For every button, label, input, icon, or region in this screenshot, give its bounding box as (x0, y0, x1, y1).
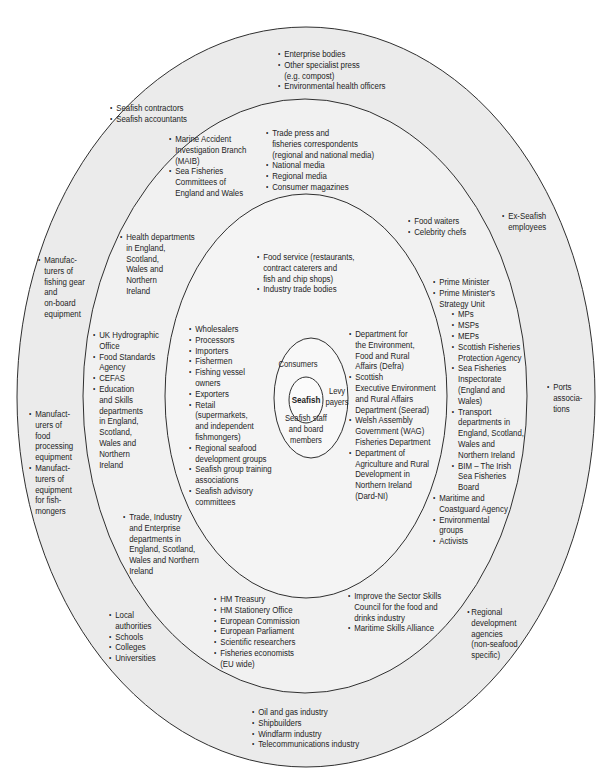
list-item: •Fishing vessel owners (189, 367, 272, 389)
list-item: •Telecommunications industry (252, 739, 359, 750)
list-item: •Health departments in England, Scotland… (120, 232, 195, 297)
bullet-icon: • (349, 415, 351, 426)
bullet-icon: • (452, 363, 454, 374)
bullet-icon: • (257, 252, 259, 263)
bullet-icon: • (189, 356, 191, 367)
bullet-icon: • (278, 60, 280, 71)
list-item: •Maritime Skills Alliance (348, 623, 441, 634)
second-left-top-list: •Health departments in England, Scotland… (120, 232, 195, 297)
bullet-icon: • (452, 320, 454, 331)
bullet-icon: • (169, 166, 171, 177)
bullet-icon: • (169, 134, 171, 145)
bullet-icon: • (252, 718, 254, 729)
outer-right-middle-list: •Ports associa- tions (547, 382, 582, 414)
bullet-icon: • (252, 729, 254, 740)
bullet-icon: • (214, 626, 216, 637)
list-item: •Regional development agencies (non-seaf… (468, 607, 518, 661)
list-item: •Retail (supermarkets, and independent f… (189, 400, 272, 443)
bullet-icon: • (189, 324, 191, 335)
third-right-list: •Department for the Environment, Food an… (349, 329, 436, 502)
bullet-icon: • (214, 605, 216, 616)
list-item: •Ex-Seafish employees (502, 211, 546, 233)
bullet-icon: • (547, 382, 549, 393)
bullet-icon: • (348, 591, 350, 602)
bullet-icon: • (433, 515, 435, 526)
bullet-icon: • (452, 461, 454, 472)
bullet-icon: • (452, 309, 454, 320)
list-item: •Manufact- urers of food processing equi… (29, 409, 73, 463)
consumers-label: Consumers (278, 359, 317, 370)
bullet-icon: • (252, 707, 254, 718)
list-item: •Manufac- turers of fishing gear and on-… (38, 255, 85, 320)
list-item: •Activists (433, 536, 524, 547)
list-item: •Food service (restaurants, contract cat… (257, 252, 355, 284)
bullet-icon: • (452, 342, 454, 353)
bullet-icon: • (123, 512, 125, 523)
bullet-icon: • (109, 642, 111, 653)
list-item: •Environmental health officers (278, 81, 385, 92)
bullet-icon: • (266, 171, 268, 182)
bullet-icon: • (189, 464, 191, 475)
seafish-core-label: Seafish (292, 395, 321, 406)
list-item: •Food Standards Agency (93, 352, 159, 374)
bullet-icon: • (433, 288, 435, 299)
bullet-icon: • (266, 182, 268, 193)
list-item: •Department of Agriculture and Rural Dev… (349, 448, 436, 502)
bullet-icon: • (38, 255, 40, 266)
list-item: •Trade, Industry and Enterprise departme… (123, 512, 199, 577)
list-item: •Industry trade bodies (257, 284, 355, 295)
second-bottom-right-list: •Improve the Sector Skills Council for t… (348, 591, 441, 634)
bullet-icon: • (467, 607, 469, 618)
list-item: •Other specialist press (e.g. compost) (278, 60, 385, 82)
list-item: •Education and Skills departments in Eng… (93, 384, 159, 470)
list-item: •Marine Accident Investigation Branch (M… (169, 134, 246, 166)
bullet-icon: • (120, 232, 122, 243)
bullet-icon: • (189, 443, 191, 454)
bullet-icon: • (189, 335, 191, 346)
bullet-icon: • (93, 384, 95, 395)
list-item: •Manufact- turers of equipment for fish-… (29, 463, 73, 517)
second-left-bottom-list: •Trade, Industry and Enterprise departme… (123, 512, 199, 577)
bullet-icon: • (266, 128, 268, 139)
second-right-list: •Prime Minister •Prime Minister's Strate… (433, 277, 524, 547)
outer-bottom-left-list: •Local authorities •Schools •Colleges •U… (109, 610, 156, 664)
list-item: •Regional seafood development groups (189, 443, 272, 465)
list-item: •Ports associa- tions (547, 382, 582, 414)
bullet-icon: • (349, 448, 351, 459)
outer-left-upper-list: •Manufac- turers of fishing gear and on-… (38, 255, 85, 320)
levy-payers-label: Levy payers (326, 386, 349, 408)
list-item: •Celebrity chefs (408, 227, 466, 238)
outer-top-left-list: •Seafish contractors •Seafish accountant… (110, 103, 187, 125)
bullet-icon: • (110, 114, 112, 125)
bullet-icon: • (109, 610, 111, 621)
sub-list-item: •Scottish Fisheries Protection Agency (452, 342, 524, 364)
stakeholder-diagram: Consumers Seafish Levy payers Seafish st… (0, 0, 608, 781)
list-item: •Maritime and Coastguard Agency (433, 493, 524, 515)
outer-bottom-right-list: •Regional development agencies (non-seaf… (468, 607, 518, 661)
bullet-icon: • (29, 463, 31, 474)
list-item: •Seafish group training associations (189, 464, 272, 486)
bullet-icon: • (110, 103, 112, 114)
bullet-icon: • (349, 329, 351, 340)
bullet-icon: • (349, 372, 351, 383)
bullet-icon: • (433, 277, 435, 288)
bullet-icon: • (189, 389, 191, 400)
bullet-icon: • (266, 160, 268, 171)
list-item: •Welsh Assembly Government (WAG) Fisheri… (349, 415, 436, 447)
bullet-icon: • (502, 211, 504, 222)
bullet-icon: • (109, 632, 111, 643)
second-left-list: •UK Hydrographic Office •Food Standards … (93, 330, 159, 470)
list-item: •Seafish accountants (110, 114, 187, 125)
list-item: •Universities (109, 653, 156, 664)
bullet-icon: • (109, 653, 111, 664)
list-item: •Seafish advisory committees (189, 486, 272, 508)
list-item: •Department for the Environment, Food an… (349, 329, 436, 372)
outer-top-list: •Enterprise bodies •Other specialist pre… (278, 49, 385, 92)
list-item: •Environmental groups (433, 515, 524, 537)
bullet-icon: • (93, 352, 95, 363)
bullet-icon: • (278, 81, 280, 92)
bullet-icon: • (452, 331, 454, 342)
bullet-icon: • (257, 284, 259, 295)
outer-bottom-list: •Oil and gas industry •Shipbuilders •Win… (252, 707, 359, 750)
third-left-list: •Wholesalers •Processors •Importers •Fis… (189, 324, 272, 508)
